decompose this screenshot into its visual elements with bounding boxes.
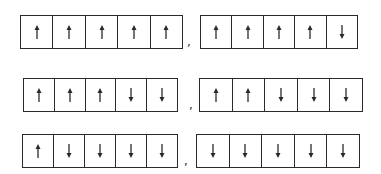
- spin-configuration-3-right: [196, 134, 360, 168]
- spin-up-arrow-icon: [33, 25, 41, 39]
- orbital-box: [230, 135, 263, 167]
- spin-down-arrow-icon: [241, 144, 249, 158]
- separator-comma: ,: [189, 99, 193, 111]
- orbital-box: [86, 16, 118, 48]
- separator-comma: ,: [187, 36, 191, 48]
- orbital-box: [200, 79, 233, 111]
- orbital-box: [23, 135, 54, 167]
- spin-up-arrow-icon: [306, 25, 314, 39]
- orbital-box: [295, 135, 328, 167]
- orbital-box: [118, 16, 150, 48]
- spin-down-arrow-icon: [277, 88, 285, 102]
- orbital-box: [151, 16, 182, 48]
- orbital-box: [330, 79, 362, 111]
- orbital-box: [262, 135, 295, 167]
- spin-down-arrow-icon: [274, 144, 282, 158]
- spin-down-arrow-icon: [307, 144, 315, 158]
- spin-up-arrow-icon: [244, 25, 252, 39]
- spin-down-arrow-icon: [338, 25, 346, 39]
- orbital-box: [265, 79, 298, 111]
- spin-down-arrow-icon: [158, 144, 166, 158]
- spin-up-arrow-icon: [66, 88, 74, 102]
- orbital-box: [55, 79, 86, 111]
- spin-configuration-3-left: [22, 134, 178, 168]
- orbital-box: [116, 135, 147, 167]
- spin-up-arrow-icon: [275, 25, 283, 39]
- orbital-box: [264, 16, 295, 48]
- orbital-box: [147, 135, 177, 167]
- spin-up-arrow-icon: [130, 25, 138, 39]
- spin-down-arrow-icon: [339, 144, 347, 158]
- spin-down-arrow-icon: [158, 88, 166, 102]
- orbital-box: [21, 16, 53, 48]
- separator-comma: ,: [184, 155, 188, 167]
- orbital-box: [147, 79, 177, 111]
- orbital-box: [233, 79, 266, 111]
- spin-up-arrow-icon: [96, 88, 104, 102]
- spin-down-arrow-icon: [342, 88, 350, 102]
- spin-down-arrow-icon: [96, 144, 104, 158]
- orbital-box: [53, 16, 85, 48]
- orbital-box: [201, 16, 232, 48]
- orbital-box: [327, 135, 359, 167]
- spin-up-arrow-icon: [35, 88, 43, 102]
- orbital-box: [86, 79, 117, 111]
- orbital-box: [197, 135, 230, 167]
- spin-up-arrow-icon: [65, 25, 73, 39]
- spin-down-arrow-icon: [127, 144, 135, 158]
- spin-configuration-2-right: [199, 78, 363, 112]
- spin-up-arrow-icon: [244, 88, 252, 102]
- spin-up-arrow-icon: [98, 25, 106, 39]
- orbital-box: [295, 16, 326, 48]
- spin-down-arrow-icon: [65, 144, 73, 158]
- orbital-box: [85, 135, 116, 167]
- spin-down-arrow-icon: [310, 88, 318, 102]
- spin-configuration-1-right: [200, 15, 358, 49]
- spin-up-arrow-icon: [212, 88, 220, 102]
- orbital-box: [116, 79, 147, 111]
- spin-down-arrow-icon: [127, 88, 135, 102]
- orbital-box: [24, 79, 55, 111]
- spin-configuration-2-left: [23, 78, 178, 112]
- orbital-box: [54, 135, 85, 167]
- spin-up-arrow-icon: [34, 144, 42, 158]
- spin-up-arrow-icon: [212, 25, 220, 39]
- spin-configuration-1-left: [20, 15, 183, 49]
- orbital-box: [327, 16, 357, 48]
- orbital-box: [298, 79, 331, 111]
- spin-down-arrow-icon: [209, 144, 217, 158]
- spin-up-arrow-icon: [162, 25, 170, 39]
- orbital-box: [232, 16, 263, 48]
